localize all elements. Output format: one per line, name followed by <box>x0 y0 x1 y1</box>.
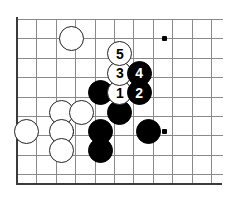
stone-black-e <box>136 119 161 144</box>
grid-line-vertical <box>211 19 212 184</box>
star-point <box>162 129 167 134</box>
stone-white-b <box>69 100 94 125</box>
stone-move-5: 5 <box>107 41 132 66</box>
grid-line-vertical <box>153 19 154 184</box>
stone-move-number: 3 <box>116 66 124 80</box>
stone-white-upper-left <box>59 26 84 51</box>
star-point <box>162 36 167 41</box>
grid-line-vertical <box>192 19 193 184</box>
stone-black-d <box>88 138 113 163</box>
board-edge-bottom <box>16 183 222 185</box>
go-board-diagram: 12345 <box>0 0 237 199</box>
stone-move-number: 5 <box>116 47 124 61</box>
stone-move-number: 1 <box>116 86 124 100</box>
grid-line-vertical <box>172 19 173 184</box>
stone-move-4: 4 <box>127 61 152 86</box>
stone-white-d <box>49 138 74 163</box>
stone-move-number: 4 <box>135 66 143 80</box>
board-edge-left <box>16 17 18 184</box>
stone-move-number: 2 <box>135 86 143 100</box>
grid-line-vertical <box>36 19 37 184</box>
